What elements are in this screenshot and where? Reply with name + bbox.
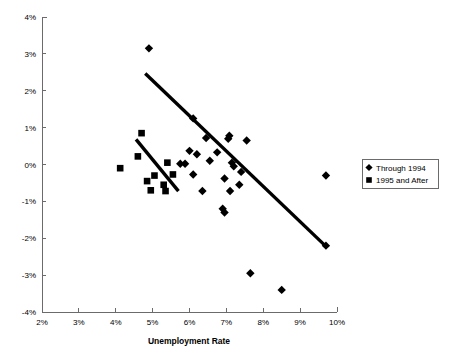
data-point-diamond (185, 147, 193, 155)
data-point-square (147, 187, 154, 194)
data-point-diamond (246, 269, 254, 277)
data-point-diamond (213, 148, 221, 156)
chart-canvas: -4%-3%-2%-1%0%1%2%3%4% 2%3%4%5%6%7%8%9%1… (0, 0, 451, 354)
x-tick-label: 10% (329, 318, 345, 327)
scatter-chart: -4%-3%-2%-1%0%1%2%3%4% 2%3%4%5%6%7%8%9%1… (0, 0, 451, 354)
data-point-diamond (193, 150, 201, 158)
data-point-square (144, 178, 151, 185)
x-tick-label: 5% (147, 318, 159, 327)
x-tick-label: 4% (110, 318, 122, 327)
x-tick-label: 8% (257, 318, 269, 327)
data-point-square (164, 159, 171, 166)
series-diamond (145, 44, 330, 294)
data-point-square (135, 153, 142, 160)
x-tick-label: 6% (184, 318, 196, 327)
data-point-diamond (181, 160, 189, 168)
x-tick-label: 7% (221, 318, 233, 327)
x-tick-label: 3% (73, 318, 85, 327)
y-tick-label: -1% (22, 197, 36, 206)
y-tick-label: -3% (22, 271, 36, 280)
data-point-diamond (145, 44, 153, 52)
legend-label: 1995 and After (376, 176, 428, 185)
data-point-square (170, 171, 177, 178)
data-point-square (117, 165, 124, 172)
y-tick-label: 1% (24, 124, 36, 133)
data-point-diamond (277, 286, 285, 294)
data-point-diamond (242, 136, 250, 144)
y-tick-label: 4% (24, 13, 36, 22)
data-point-diamond (206, 157, 214, 165)
data-point-square (162, 188, 169, 195)
chart-legend: Through 19941995 and After (362, 159, 438, 188)
data-point-diamond (220, 174, 228, 182)
data-point-diamond (198, 187, 206, 195)
data-series (117, 44, 330, 294)
data-point-square (138, 130, 145, 137)
y-tick-label: -2% (22, 234, 36, 243)
x-tick-label: 9% (294, 318, 306, 327)
data-point-square (151, 172, 158, 179)
data-point-square (160, 181, 167, 188)
data-point-diamond (322, 171, 330, 179)
data-point-diamond (235, 181, 243, 189)
x-axis-title: Unemployment Rate (148, 336, 230, 346)
data-point-diamond (189, 170, 197, 178)
plot-axes (42, 17, 337, 312)
legend-label: Through 1994 (376, 164, 426, 173)
x-axis-ticks: 2%3%4%5%6%7%8%9%10% (36, 308, 345, 327)
y-tick-label: 3% (24, 50, 36, 59)
data-point-diamond (226, 187, 234, 195)
y-tick-label: 2% (24, 87, 36, 96)
trendline (136, 139, 178, 191)
trendline (145, 73, 326, 246)
series-square (117, 130, 176, 194)
x-tick-label: 2% (36, 318, 48, 327)
y-tick-label: 0% (24, 161, 36, 170)
y-tick-label: -4% (22, 308, 36, 317)
legend-marker-square (366, 177, 372, 183)
